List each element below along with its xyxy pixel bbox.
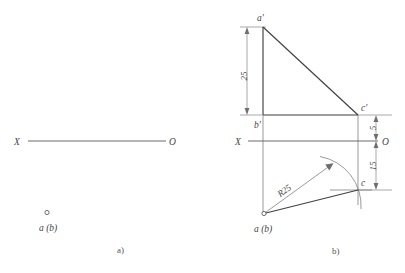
- panel-b-caption: b): [332, 246, 340, 256]
- panel-a-axis-label-o: O: [169, 137, 176, 147]
- panel-b-dimension-text-15: 15: [368, 161, 378, 171]
- panel-a-point-ab-marker: [45, 210, 49, 214]
- panel-a: X O a (b) a): [13, 137, 176, 255]
- panel-b-dimension-arrow-15-top: [374, 141, 379, 148]
- panel-b-label-aprime: a': [257, 13, 265, 23]
- panel-a-caption: a): [117, 245, 124, 255]
- panel-b-label-cprime: c': [361, 103, 368, 113]
- panel-a-axis-label-x: X: [13, 137, 21, 147]
- panel-b-radius-construction-line: [264, 165, 331, 214]
- panel-b-edge-aprime-cprime: [263, 27, 358, 115]
- panel-b-dimension-text-5: 5: [368, 125, 378, 130]
- panel-b-dimension-text-25: 25: [239, 71, 249, 81]
- panel-b-point-ab-marker: [262, 211, 266, 215]
- panel-b-dimension-arrow-25-top: [245, 27, 250, 34]
- panel-b-radius-text-r25: R25: [275, 182, 294, 199]
- panel-b-point-c-label: c: [361, 178, 366, 188]
- panel-b-radius-arrowhead: [325, 163, 333, 170]
- panel-b-construction-arc-r25: [320, 157, 361, 210]
- panel-b-dimension-arrow-15-bottom: [374, 183, 379, 190]
- panel-b-axis-label-x: X: [234, 137, 242, 147]
- panel-a-point-ab-label: a (b): [39, 223, 57, 234]
- panel-b-dimension-arrow-25-bottom: [245, 108, 250, 115]
- panel-b-label-bprime: b': [254, 120, 262, 130]
- panel-b-dimension-arrow-5-top: [374, 115, 379, 122]
- panel-b-point-ab-label: a (b): [254, 224, 272, 235]
- panel-b-dimension-arrow-5-bottom: [374, 134, 379, 141]
- panel-b: 25 a' b' c' X O 5 15: [234, 13, 392, 256]
- panel-b-axis-label-o: O: [382, 137, 389, 147]
- engineering-drawing-figure: X O a (b) a) 25 a' b' c': [0, 0, 405, 273]
